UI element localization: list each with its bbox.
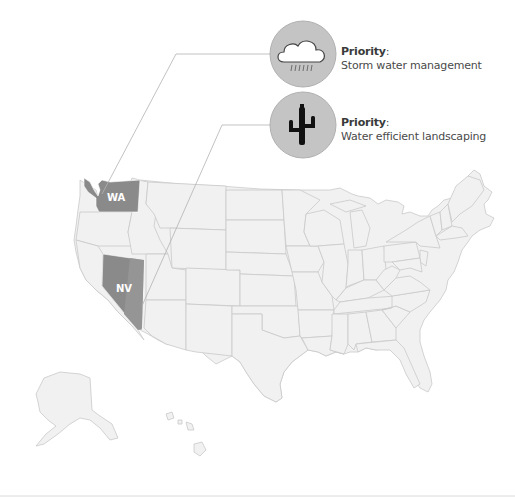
callout-icon-landscaping — [270, 92, 336, 158]
state-wy — [170, 228, 226, 270]
callout-description: Storm water management — [341, 59, 482, 73]
state-hi — [166, 412, 206, 456]
callout-colon: : — [386, 116, 390, 129]
state-or — [76, 212, 132, 246]
callout-icon-storm — [270, 21, 336, 87]
callout-water-landscaping: Priority: Water efficient landscaping — [341, 116, 486, 144]
us-map-infographic — [0, 0, 515, 497]
callout-colon: : — [386, 45, 390, 58]
state-co — [186, 268, 240, 306]
state-label-nv: NV — [116, 283, 132, 294]
callout-description: Water efficient landscaping — [341, 130, 486, 144]
state-nm — [186, 304, 232, 356]
state-ms — [330, 314, 348, 354]
state-ks — [240, 274, 296, 306]
state-az — [144, 300, 186, 350]
state-ak — [36, 372, 118, 446]
connector-wa — [102, 54, 272, 194]
non-contiguous-states — [36, 372, 206, 456]
callout-title: Priority — [341, 116, 386, 129]
state-ia — [286, 246, 324, 272]
state-sd — [226, 220, 286, 254]
state-label-wa: WA — [107, 192, 125, 203]
callout-title: Priority — [341, 45, 386, 58]
state-ar — [298, 310, 334, 338]
state-nd — [226, 190, 284, 220]
callout-storm-water: Priority: Storm water management — [341, 45, 482, 73]
